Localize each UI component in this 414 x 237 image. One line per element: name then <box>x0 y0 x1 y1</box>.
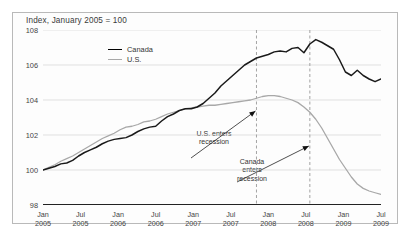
x-axis-tick-label-9: Jul2009 <box>363 210 399 228</box>
x-axis-tick-year-9: 2009 <box>363 219 399 228</box>
x-axis-tick-month-8: Jan <box>325 210 361 219</box>
x-axis-tick-year-4: 2007 <box>175 219 211 228</box>
x-axis-tick-label-2: Jan2006 <box>100 210 136 228</box>
x-axis-tick-year-3: 2006 <box>138 219 174 228</box>
y-axis-tick-label-100: 100 <box>16 166 38 175</box>
y-axis-tick-label-108: 108 <box>16 26 38 35</box>
x-axis-tick-year-7: 2008 <box>288 219 324 228</box>
x-axis-tick-label-6: Jan2008 <box>250 210 286 228</box>
x-axis-tick-month-5: Jul <box>213 210 249 219</box>
x-axis-tick-month-7: Jul <box>288 210 324 219</box>
x-axis-tick-label-0: Jan2005 <box>25 210 61 228</box>
x-axis-tick-year-0: 2005 <box>25 219 61 228</box>
x-axis-tick-year-1: 2005 <box>63 219 99 228</box>
plot-svg <box>43 30 381 205</box>
series-line-us <box>43 96 381 195</box>
x-axis-tick-month-9: Jul <box>363 210 399 219</box>
arrow-us-recession-head <box>249 111 255 117</box>
x-axis-tick-month-6: Jan <box>250 210 286 219</box>
arrow-canada-recession-shaft <box>237 146 309 182</box>
x-axis-tick-label-8: Jan2009 <box>325 210 361 228</box>
x-axis-tick-year-6: 2008 <box>250 219 286 228</box>
x-axis-tick-label-7: Jul2008 <box>288 210 324 228</box>
arrow-us-recession-shaft <box>191 111 255 158</box>
x-axis-tick-month-4: Jan <box>175 210 211 219</box>
y-axis-tick-label-104: 104 <box>16 96 38 105</box>
x-axis-tick-year-5: 2007 <box>213 219 249 228</box>
x-axis-tick-year-8: 2009 <box>325 219 361 228</box>
x-axis-tick-label-5: Jul2007 <box>213 210 249 228</box>
chart-title: Index, January 2005 = 100 <box>26 16 127 25</box>
x-axis-tick-month-3: Jul <box>138 210 174 219</box>
x-axis-tick-label-1: Jul2005 <box>63 210 99 228</box>
y-axis-tick-label-102: 102 <box>16 131 38 140</box>
x-axis-tick-label-3: Jul2006 <box>138 210 174 228</box>
x-axis-tick-label-4: Jan2007 <box>175 210 211 228</box>
x-axis-tick-month-1: Jul <box>63 210 99 219</box>
x-axis-tick-month-0: Jan <box>25 210 61 219</box>
plot-area: 98100102104106108Jan2005Jul2005Jan2006Ju… <box>43 30 381 205</box>
y-axis-tick-label-106: 106 <box>16 61 38 70</box>
y-axis-tick-label-98: 98 <box>16 201 38 210</box>
x-axis-tick-year-2: 2006 <box>100 219 136 228</box>
chart-figure: Index, January 2005 = 100 Canada U.S. U.… <box>0 0 414 237</box>
x-axis-tick-month-2: Jan <box>100 210 136 219</box>
